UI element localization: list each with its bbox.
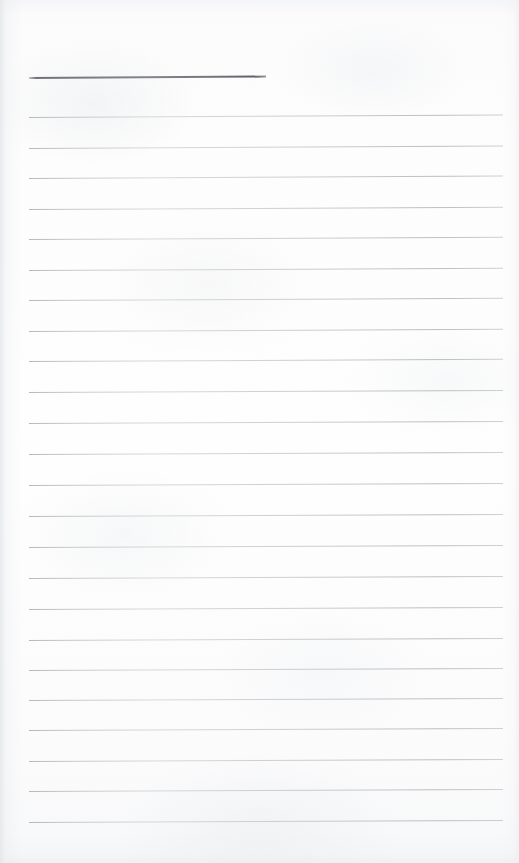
ruled-line bbox=[29, 452, 503, 455]
ruled-line bbox=[29, 698, 503, 701]
ruled-line bbox=[29, 421, 503, 424]
ruled-line bbox=[29, 820, 503, 823]
ruled-line bbox=[29, 176, 503, 179]
ruled-line bbox=[29, 329, 503, 332]
scanned-notepad-page bbox=[0, 0, 519, 863]
ruled-line bbox=[29, 268, 503, 271]
ruled-line bbox=[29, 789, 503, 792]
ruled-line bbox=[29, 728, 503, 731]
ruled-line bbox=[29, 390, 503, 393]
ruled-line bbox=[29, 759, 503, 762]
ruled-line bbox=[29, 359, 503, 362]
ruled-line bbox=[29, 607, 503, 610]
ruled-line bbox=[29, 638, 503, 641]
ruled-line bbox=[29, 207, 503, 210]
ruled-line bbox=[29, 483, 503, 486]
ruled-line bbox=[29, 115, 503, 118]
ruled-line bbox=[29, 545, 503, 548]
ruled-line bbox=[29, 576, 503, 579]
ruled-line bbox=[29, 146, 503, 149]
ruled-line bbox=[29, 298, 503, 301]
scan-edge-vignette bbox=[0, 0, 519, 863]
header-rule bbox=[29, 76, 266, 79]
ruled-line bbox=[29, 514, 503, 517]
ruled-line bbox=[29, 237, 503, 240]
ruled-line bbox=[29, 668, 503, 671]
